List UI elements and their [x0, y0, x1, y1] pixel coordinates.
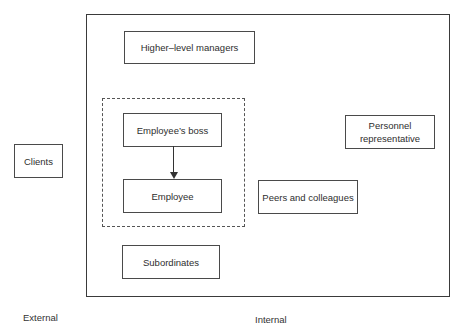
region-label-internal: Internal: [255, 314, 287, 324]
node-peers-and-colleagues: Peers and colleagues: [258, 180, 358, 214]
node-higher-level-managers: Higher–level managers: [124, 31, 255, 64]
region-label-external: External: [23, 312, 58, 323]
node-label: Employee’s boss: [137, 124, 209, 137]
node-employee: Employee: [123, 179, 222, 213]
node-label: Personnel representative: [354, 119, 426, 145]
arrow-boss-to-employee: [173, 146, 174, 174]
arrowhead-icon: [170, 172, 178, 179]
node-employees-boss: Employee’s boss: [123, 113, 222, 147]
node-label: Subordinates: [143, 256, 199, 269]
node-clients: Clients: [14, 144, 63, 178]
node-subordinates: Subordinates: [122, 245, 220, 279]
node-label: Higher–level managers: [141, 41, 239, 54]
node-label: Peers and colleagues: [262, 191, 353, 204]
node-label: Employee: [151, 190, 193, 203]
node-label: Clients: [24, 155, 53, 168]
node-personnel-representative: Personnel representative: [345, 115, 435, 149]
